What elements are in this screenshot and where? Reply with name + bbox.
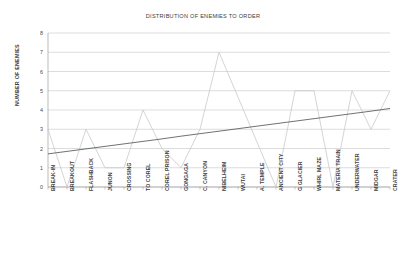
x-tick-label: A. TEMPLE	[259, 162, 265, 191]
x-tick-label: NIBELHEIM	[221, 162, 227, 191]
x-tick-label: CROSSING	[126, 163, 132, 191]
x-tick-label: UNDERWATER	[354, 153, 360, 191]
x-tick-label: ANCIENT CITY	[278, 153, 284, 191]
x-tick-label: GONGAGA	[183, 163, 189, 191]
x-tick-label: WUTAI	[240, 174, 246, 191]
x-tick-label: JUNON	[107, 172, 113, 191]
chart-container: DISTRIBUTION OF ENEMIES TO ORDER NUMBER …	[0, 0, 406, 266]
x-tick-label: WHIRL MAZE	[316, 157, 322, 191]
x-tick-label: BREAKOUT	[69, 161, 75, 191]
x-tick-label: MIDGAR	[373, 169, 379, 191]
x-tick-label: MATERIA TRAIN	[335, 149, 341, 191]
x-tick-label: FLASHBACK	[88, 158, 94, 191]
trendline	[48, 108, 390, 153]
plot-area	[0, 0, 406, 266]
x-tick-label: C. CANYON	[202, 161, 208, 191]
x-tick-label: COREL PRISON	[164, 150, 170, 191]
x-tick-label: CRATER	[392, 169, 398, 191]
x-tick-label: TO COREL	[145, 163, 151, 191]
x-tick-label: G GLACIER	[297, 161, 303, 191]
x-tick-label: BREAK-IN	[50, 165, 56, 191]
